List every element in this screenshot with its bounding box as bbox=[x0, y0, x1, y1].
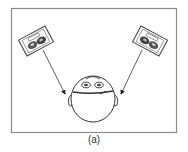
left-speaker-icon bbox=[19, 26, 54, 56]
figure-caption: (a) bbox=[0, 133, 188, 147]
right-speaker-icon bbox=[133, 26, 168, 56]
right-arrow bbox=[121, 50, 142, 94]
listener-head-icon bbox=[68, 76, 117, 122]
figure: (a) bbox=[0, 0, 188, 152]
left-arrow bbox=[43, 50, 65, 94]
